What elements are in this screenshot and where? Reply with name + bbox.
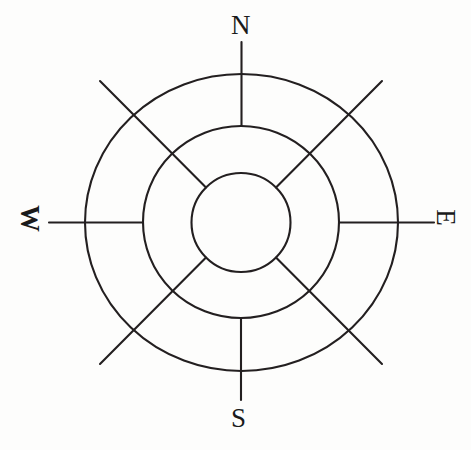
cardinal-spoke-group [49,42,434,400]
label-south: S [231,405,246,432]
label-east: E [432,209,459,226]
compass-diagram-page: N S W E [0,0,471,450]
label-north: N [231,12,251,39]
label-west: W [16,205,43,232]
compass-rose-figure [0,0,471,450]
